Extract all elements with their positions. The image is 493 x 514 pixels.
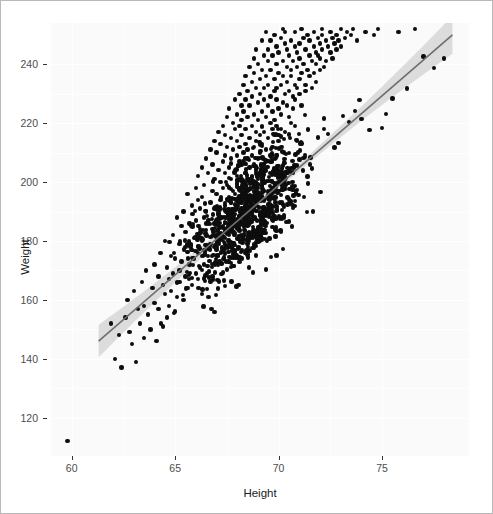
x-tick-mark	[279, 456, 280, 460]
y-axis-title: Weight	[19, 239, 31, 275]
x-tick-label: 60	[66, 462, 78, 474]
x-tick-mark	[382, 456, 383, 460]
y-tick-label: 120	[20, 412, 38, 424]
y-tick-label: 160	[20, 294, 38, 306]
y-tick-mark	[43, 123, 47, 124]
y-tick-label: 140	[20, 353, 38, 365]
y-tick-mark	[43, 64, 47, 65]
x-tick-mark	[72, 456, 73, 460]
regression-line-path	[99, 35, 453, 341]
y-tick-mark	[43, 359, 47, 360]
regression-line-shape	[51, 23, 469, 456]
plot-panel	[51, 23, 469, 456]
x-axis-ticks: 60657075	[51, 456, 469, 482]
x-tick-label: 70	[273, 462, 285, 474]
x-tick-label: 75	[376, 462, 388, 474]
x-tick-label: 65	[169, 462, 181, 474]
y-tick-label: 220	[20, 117, 38, 129]
y-tick-mark	[43, 241, 47, 242]
y-tick-label: 200	[20, 176, 38, 188]
chart-figure: 120140160180200220240 Weight 60657075 He…	[0, 0, 493, 514]
regression-line	[51, 23, 469, 456]
y-tick-mark	[43, 182, 47, 183]
x-tick-mark	[175, 456, 176, 460]
y-tick-label: 240	[20, 58, 38, 70]
x-axis-title: Height	[51, 487, 469, 499]
y-tick-mark	[43, 418, 47, 419]
y-tick-mark	[43, 300, 47, 301]
